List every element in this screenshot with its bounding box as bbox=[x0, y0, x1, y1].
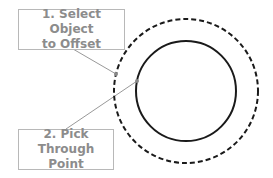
callout-1-line1: 1. Select Object bbox=[19, 7, 124, 37]
callout-2-line1: 2. Pick bbox=[43, 127, 88, 142]
callout-2-line2: Through Point bbox=[19, 142, 113, 172]
leader-line-through-point bbox=[66, 81, 137, 129]
callout-pick-through-point: 2. Pick Through Point bbox=[18, 129, 114, 170]
callout-1-line2: to Offset bbox=[42, 37, 101, 52]
callout-select-object: 1. Select Object to Offset bbox=[18, 9, 125, 50]
leader-line-select-object bbox=[73, 49, 116, 74]
original-circle bbox=[136, 41, 236, 141]
through-point-marker bbox=[135, 79, 139, 83]
select-point-marker bbox=[114, 72, 118, 76]
